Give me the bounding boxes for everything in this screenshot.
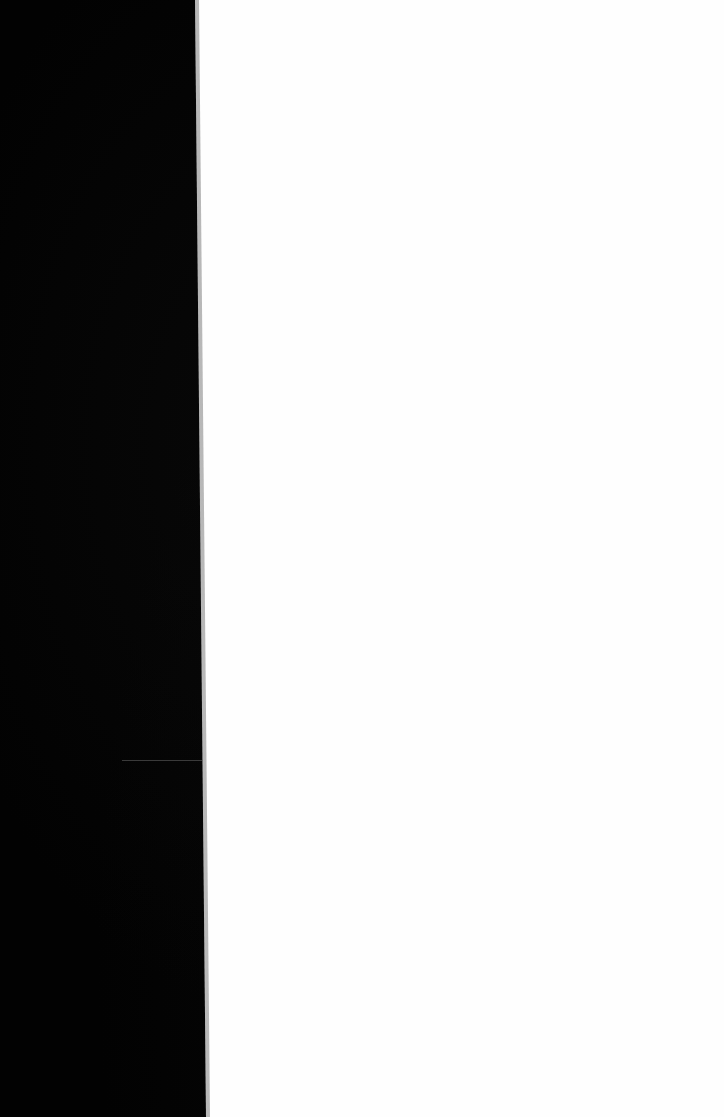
white-surface: [204, 0, 724, 1117]
image-canvas: [0, 0, 724, 1117]
faint-horizontal-line: [122, 760, 202, 761]
